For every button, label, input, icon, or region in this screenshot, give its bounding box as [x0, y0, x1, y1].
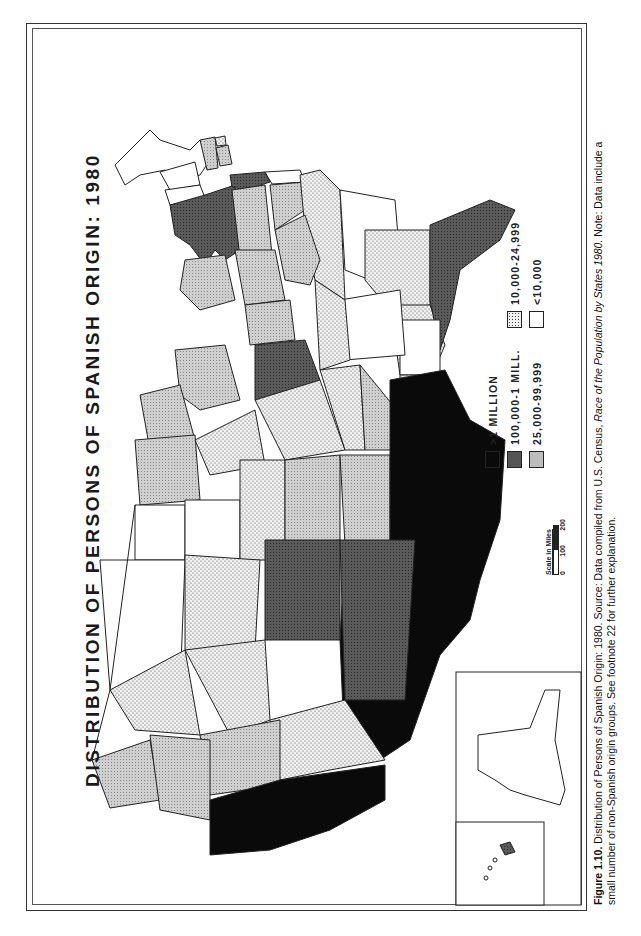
- map-title: DISTRIBUTION OF PERSONS OF SPANISH ORIGI…: [82, 153, 104, 787]
- state-michigan: [180, 255, 235, 310]
- figure-label: Figure 1.10.: [592, 847, 604, 905]
- state-kansas: [285, 455, 340, 545]
- state-colorado: [265, 540, 340, 640]
- state-south-dakota: [185, 500, 240, 560]
- scale-title: Scale in Miles: [545, 519, 552, 575]
- hawaii-inset: [456, 822, 544, 905]
- swatch-white: [529, 311, 544, 328]
- state-indiana: [245, 300, 295, 345]
- legend-item-25k-99k: 25,000-99,999: [529, 362, 544, 468]
- legend-item-over-1m: >1 MILLION: [485, 375, 500, 468]
- state-connecticut: [216, 145, 232, 166]
- swatch-stipple: [507, 311, 522, 328]
- state-oklahoma: [340, 455, 390, 545]
- source-title: Race of the Population by States 1980.: [592, 240, 604, 422]
- swatch-light-gray: [529, 451, 544, 468]
- state-ohio: [235, 250, 285, 305]
- state-new-mexico: [340, 540, 415, 700]
- swatch-black: [485, 451, 500, 468]
- scale-bar: Scale in Miles 0 100 200: [545, 519, 566, 575]
- legend-item-100k-1m: 100,000-1 MILL.: [507, 349, 522, 468]
- legend-item-10k-25k: 10,000-24,999: [507, 222, 522, 328]
- state-wyoming: [185, 555, 260, 650]
- scale-ticks: 0 100 200: [559, 519, 566, 575]
- state-delaware: [265, 170, 305, 184]
- state-north-dakota: [135, 505, 185, 560]
- state-oregon: [150, 735, 210, 820]
- swatch-dark-gray: [507, 451, 522, 468]
- figure-caption: Figure 1.10. Distribution of Persons of …: [592, 115, 618, 905]
- state-alabama: [400, 320, 440, 375]
- state-minnesota: [135, 435, 200, 505]
- legend-item-under-10k: <10,000: [529, 258, 544, 328]
- state-rhode-island: [215, 136, 226, 146]
- state-florida: [430, 200, 515, 350]
- state-tennessee: [340, 290, 405, 360]
- state-wisconsin: [175, 345, 240, 410]
